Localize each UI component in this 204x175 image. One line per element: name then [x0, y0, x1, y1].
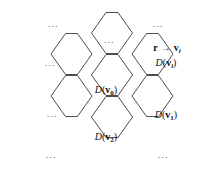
cell-left-upper	[51, 34, 92, 75]
arrow-icon: →	[161, 42, 171, 53]
label-d-v2: D(v2)	[95, 132, 117, 144]
label-r: r	[153, 42, 157, 53]
label-d-vi: D(vi)	[156, 58, 177, 70]
ellipsis-left-lower: ···	[47, 112, 58, 121]
ellipsis-bottom-left: ···	[46, 153, 57, 162]
label-d-v0-close: )	[114, 84, 117, 95]
hexagon-lattice-figure: r→vi D(vi) D(v0) D(v1) D(v2) ···········…	[0, 0, 204, 175]
ellipsis-top-center: ···	[104, 38, 115, 47]
ellipsis-top-right: ···	[153, 22, 164, 31]
label-mapping-r-to-vi: r→vi	[153, 43, 180, 55]
label-d-v1-close: )	[174, 109, 177, 120]
label-d-v1: D(v1)	[155, 110, 177, 122]
label-subscript-i: i	[179, 47, 181, 55]
label-d-v0: D(v0)	[95, 85, 117, 97]
label-d-v2-close: )	[114, 131, 117, 142]
label-d-vi-close: )	[173, 57, 176, 68]
ellipsis-left-upper: ···	[45, 61, 56, 70]
ellipsis-top-left: ···	[48, 22, 59, 31]
ellipsis-bottom-right: ···	[158, 153, 169, 162]
